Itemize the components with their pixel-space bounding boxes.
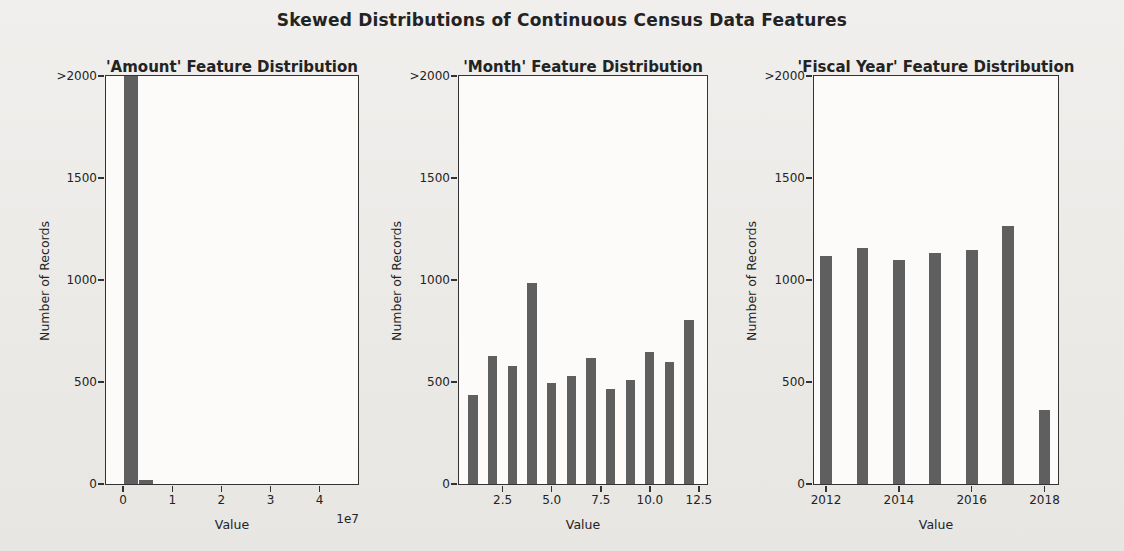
y-tick-label: 500 xyxy=(427,375,450,389)
bar xyxy=(586,358,595,485)
x-tick-label: 2014 xyxy=(884,493,915,507)
y-tick-label: 1500 xyxy=(774,171,805,185)
x-tick-label: 12.5 xyxy=(686,493,713,507)
bar xyxy=(626,380,635,484)
x-tick xyxy=(172,486,174,492)
y-tick xyxy=(451,483,457,485)
x-tick-label: 3 xyxy=(267,493,275,507)
y-tick xyxy=(806,279,812,281)
bar xyxy=(1002,226,1014,484)
subplot-title: 'Month' Feature Distribution xyxy=(433,58,733,76)
plot-area: 050010001500>20002.55.07.510.012.5 xyxy=(458,75,708,485)
x-tick-label: 10.0 xyxy=(637,493,664,507)
bar xyxy=(1039,410,1051,485)
x-tick xyxy=(898,486,900,492)
x-tick-label: 2018 xyxy=(1029,493,1060,507)
bar xyxy=(857,248,869,484)
y-tick xyxy=(98,75,104,77)
bar xyxy=(606,389,615,484)
y-tick xyxy=(806,177,812,179)
bar xyxy=(665,362,674,484)
x-tick-label: 2016 xyxy=(956,493,987,507)
x-tick xyxy=(649,486,651,492)
x-tick xyxy=(1044,486,1046,492)
x-tick-label: 7.5 xyxy=(591,493,610,507)
bar xyxy=(820,256,832,485)
bar xyxy=(124,76,138,484)
x-tick xyxy=(551,486,553,492)
x-tick-label: 5.0 xyxy=(542,493,561,507)
y-tick xyxy=(451,177,457,179)
x-tick xyxy=(221,486,223,492)
x-tick xyxy=(502,486,504,492)
x-tick xyxy=(270,486,272,492)
y-tick-label: 1500 xyxy=(419,171,450,185)
bar xyxy=(684,320,693,484)
x-axis-label: Value xyxy=(813,517,1059,532)
bar xyxy=(468,395,477,484)
x-tick-label: 2012 xyxy=(811,493,842,507)
y-tick-label: 1000 xyxy=(66,273,97,287)
x-axis-label: Value xyxy=(458,517,708,532)
y-tick-label: >2000 xyxy=(56,69,97,83)
x-axis-offset-label: 1e7 xyxy=(289,512,359,526)
y-tick xyxy=(98,279,104,281)
plot-area: 050010001500>200001234 xyxy=(105,75,359,485)
y-tick xyxy=(451,381,457,383)
x-tick-label: 2.5 xyxy=(493,493,512,507)
plot-area: 050010001500>20002012201420162018 xyxy=(813,75,1059,485)
x-tick xyxy=(825,486,827,492)
y-axis-label: Number of Records xyxy=(389,221,404,341)
y-tick-label: 1000 xyxy=(774,273,805,287)
y-axis-label: Number of Records xyxy=(37,221,52,341)
y-tick-label: 500 xyxy=(782,375,805,389)
y-tick xyxy=(98,177,104,179)
subplot-title: 'Fiscal Year' Feature Distribution xyxy=(788,58,1084,76)
bar xyxy=(966,250,978,484)
bar xyxy=(508,366,517,484)
bar xyxy=(893,260,905,484)
bar xyxy=(527,283,536,484)
y-tick-label: >2000 xyxy=(764,69,805,83)
bar xyxy=(488,356,497,485)
bar xyxy=(567,376,576,484)
y-tick xyxy=(98,483,104,485)
y-tick xyxy=(806,381,812,383)
y-tick xyxy=(451,75,457,77)
y-tick xyxy=(451,279,457,281)
y-tick-label: 1000 xyxy=(419,273,450,287)
x-tick xyxy=(971,486,973,492)
y-tick-label: 0 xyxy=(797,477,805,491)
y-tick-label: 500 xyxy=(74,375,97,389)
x-tick xyxy=(122,486,124,492)
bar xyxy=(645,352,654,484)
x-tick-label: 0 xyxy=(119,493,127,507)
y-tick xyxy=(806,483,812,485)
x-tick-label: 2 xyxy=(218,493,226,507)
x-tick xyxy=(319,486,321,492)
bar xyxy=(139,480,153,484)
figure: Skewed Distributions of Continuous Censu… xyxy=(0,0,1124,551)
y-tick-label: 0 xyxy=(442,477,450,491)
y-tick-label: 0 xyxy=(89,477,97,491)
x-tick-label: 1 xyxy=(168,493,176,507)
y-tick-label: 1500 xyxy=(66,171,97,185)
x-tick xyxy=(698,486,700,492)
figure-title: Skewed Distributions of Continuous Censu… xyxy=(0,10,1124,30)
y-tick-label: >2000 xyxy=(409,69,450,83)
y-tick xyxy=(806,75,812,77)
y-tick xyxy=(98,381,104,383)
x-tick-label: 4 xyxy=(316,493,324,507)
y-axis-label: Number of Records xyxy=(744,221,759,341)
bar xyxy=(547,383,556,484)
x-tick xyxy=(600,486,602,492)
bar xyxy=(929,253,941,485)
subplot-title: 'Amount' Feature Distribution xyxy=(80,58,384,76)
